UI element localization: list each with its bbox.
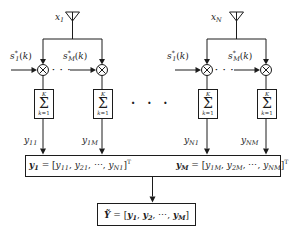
sigma-icon: Σ (98, 97, 108, 110)
vector-yM-expression: yM = [y1M, y2M, ⋯, yNM]T (176, 159, 288, 171)
output-y11-label: y11 (24, 135, 37, 146)
sum-lower-limit: k=1 (261, 110, 272, 116)
antenna-n-label: xN (211, 12, 222, 23)
multiplier-1-icon (38, 65, 49, 76)
antenna-1-icon (66, 12, 80, 39)
down-arrowhead (40, 59, 46, 65)
sum-lower-limit: k=1 (97, 110, 108, 116)
multiplier-to-sum-wires (43, 76, 266, 90)
final-matrix-expression: Ỹ = [y1, y2, ⋯, yM] (104, 209, 189, 221)
multiplier-2-icon (97, 65, 108, 76)
down-arrowhead (263, 59, 269, 65)
antenna-n-icon (230, 12, 244, 39)
code-s1-label-group1: s*1(k) (10, 51, 32, 62)
right-arrowhead (196, 67, 202, 73)
right-arrowhead (255, 67, 261, 73)
right-arrowhead (91, 67, 97, 73)
despreader-bank-diagram: x1 xN s*1(k) s*M(k) s*1(k) s*M(k) ··· ··… (0, 0, 293, 240)
down-arrowhead (40, 149, 46, 155)
down-arrowhead (204, 149, 210, 155)
right-arrowhead (32, 67, 38, 73)
sigma-icon: Σ (39, 97, 49, 110)
summation-block-4: K Σ k=1 (257, 89, 277, 119)
ellipsis-multipliers-1: ··· (52, 64, 75, 74)
vector-to-final-arrow (150, 177, 156, 203)
ellipsis-between-groups: ··· (131, 97, 180, 109)
summation-block-3: K Σ k=1 (198, 89, 218, 119)
summation-block-1: K Σ k=1 (34, 89, 54, 119)
final-matrix-box: Ỹ = [y1, y2, ⋯, yM] (97, 203, 196, 226)
ellipsis-multipliers-2: ··· (215, 64, 238, 74)
vector-y1-expression: y1 = [y11, y21, ⋯, yN1]T (29, 159, 131, 171)
sigma-icon: Σ (262, 97, 272, 110)
sum-lower-limit: k=1 (202, 110, 213, 116)
sum-to-vector-arrows (40, 119, 269, 155)
code-s1-label-group2: s*1(k) (167, 51, 189, 62)
output-y1M-label: y1M (82, 135, 98, 146)
multiplier-3-icon (202, 65, 213, 76)
output-yN1-label: yN1 (184, 135, 199, 146)
down-arrowhead (150, 197, 156, 203)
code-sM-label-group2: s*M(k) (228, 51, 252, 62)
down-arrowhead (263, 149, 269, 155)
code-sM-label-group1: s*M(k) (63, 51, 87, 62)
antenna-1-label: x1 (55, 12, 64, 23)
output-yNM-label: yNM (241, 135, 258, 146)
multiplier-4-icon (261, 65, 272, 76)
sigma-icon: Σ (203, 97, 213, 110)
sum-lower-limit: k=1 (38, 110, 49, 116)
summation-block-2: K Σ k=1 (93, 89, 113, 119)
down-arrowhead (204, 59, 210, 65)
down-arrowhead (99, 59, 105, 65)
down-arrowhead (99, 149, 105, 155)
